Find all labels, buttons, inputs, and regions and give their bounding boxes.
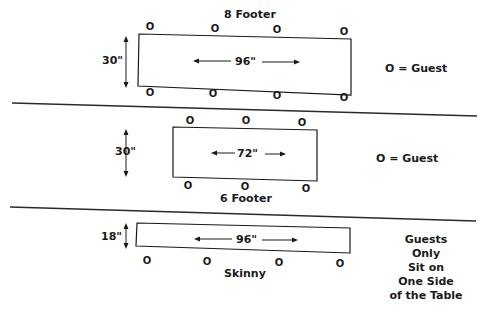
legend-guest: O = Guest <box>376 153 438 164</box>
depth-label: 30" <box>115 146 136 157</box>
guest-seat: O <box>272 25 282 35</box>
section-divider-2 <box>10 207 476 221</box>
guest-seat: O <box>274 258 284 268</box>
note-line: One Side <box>386 275 466 289</box>
width-label: 96" <box>235 56 256 67</box>
guest-seat: O <box>210 24 220 34</box>
legend-guest: O = Guest <box>385 63 447 74</box>
one-side-note: Guests Only Sit on One Side of the Table <box>386 233 466 303</box>
note-line: Only <box>386 247 466 261</box>
guest-seat: O <box>208 89 218 99</box>
note-line: of the Table <box>386 289 466 303</box>
guest-seat: O <box>183 181 193 191</box>
guest-seat: O <box>145 22 155 32</box>
depth-label: 30" <box>102 55 123 66</box>
guest-seat: O <box>241 116 251 126</box>
guest-seat: O <box>272 91 282 101</box>
guest-seat: O <box>142 256 152 266</box>
guest-seat: O <box>145 88 155 98</box>
guest-seat: O <box>297 118 307 128</box>
depth-label: 18" <box>101 231 122 242</box>
guest-seat: O <box>335 259 345 269</box>
table-name: Skinny <box>224 268 266 279</box>
width-label: 72" <box>237 148 258 159</box>
guest-seat: O <box>301 184 311 194</box>
guest-seat: O <box>202 257 212 267</box>
note-line: Sit on <box>386 261 466 275</box>
guest-seat: O <box>339 27 349 37</box>
width-label: 96" <box>236 234 257 245</box>
table-name: 6 Footer <box>220 193 272 204</box>
guest-seat: O <box>185 116 195 126</box>
note-line: Guests <box>386 233 466 247</box>
table-name: 8 Footer <box>224 9 276 20</box>
guest-seat: O <box>240 182 250 192</box>
guest-seat: O <box>339 93 349 103</box>
